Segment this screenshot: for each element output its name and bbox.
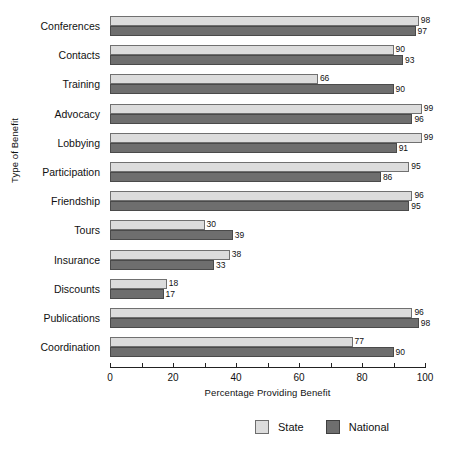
x-tick	[173, 363, 174, 368]
bar-national[interactable]	[110, 26, 416, 36]
bar-state[interactable]	[110, 337, 353, 347]
x-tick	[110, 363, 111, 368]
bar-value-label: 86	[383, 173, 392, 182]
bar-state[interactable]	[110, 220, 205, 230]
bar-national[interactable]	[110, 260, 214, 270]
x-tick-label: 100	[405, 372, 445, 384]
bar-value-label: 91	[399, 144, 408, 153]
x-tick	[299, 363, 300, 368]
bar-national[interactable]	[110, 84, 394, 94]
bar-value-label: 90	[396, 348, 405, 357]
category-label-training: Training	[62, 78, 100, 90]
bar-state[interactable]	[110, 45, 394, 55]
bar-state[interactable]	[110, 133, 422, 143]
bar-national[interactable]	[110, 55, 403, 65]
bar-group: 9897	[110, 16, 425, 36]
bar-state[interactable]	[110, 16, 419, 26]
x-tick-label: 20	[153, 372, 193, 384]
x-tick	[236, 363, 237, 368]
x-tick	[362, 363, 363, 368]
bar-value-label: 33	[216, 261, 225, 270]
bar-group: 3833	[110, 250, 425, 270]
bar-value-label: 38	[232, 250, 241, 259]
bar-national[interactable]	[110, 289, 164, 299]
legend-label-national: National	[349, 421, 389, 433]
bar-national[interactable]	[110, 318, 419, 328]
x-tick-label: 40	[216, 372, 256, 384]
category-label-participation: Participation	[42, 166, 100, 178]
bar-group: 9695	[110, 191, 425, 211]
bar-value-label: 95	[411, 162, 420, 171]
bar-value-label: 17	[166, 290, 175, 299]
x-tick-label: 80	[342, 372, 382, 384]
bar-value-label: 77	[355, 337, 364, 346]
bar-value-label: 98	[421, 319, 430, 328]
bar-national[interactable]	[110, 143, 397, 153]
bar-national[interactable]	[110, 347, 394, 357]
bar-group: 1817	[110, 279, 425, 299]
x-tick	[142, 363, 143, 368]
bar-value-label: 96	[414, 191, 423, 200]
x-tick-label: 0	[90, 372, 130, 384]
category-label-friendship: Friendship	[51, 195, 100, 207]
bar-value-label: 66	[320, 74, 329, 83]
plot-area: 9897909366909996999195869695303938331817…	[110, 14, 425, 364]
category-label-tours: Tours	[74, 224, 100, 236]
bar-national[interactable]	[110, 230, 233, 240]
bar-group: 6690	[110, 74, 425, 94]
bar-value-label: 30	[207, 220, 216, 229]
legend-swatch-national-icon	[326, 420, 340, 434]
bar-value-label: 90	[396, 45, 405, 54]
bar-national[interactable]	[110, 172, 381, 182]
bar-value-label: 90	[396, 85, 405, 94]
bar-state[interactable]	[110, 279, 167, 289]
bar-value-label: 93	[405, 56, 414, 65]
bar-value-label: 96	[414, 308, 423, 317]
bar-group: 9586	[110, 162, 425, 182]
bar-group: 9996	[110, 104, 425, 124]
bar-value-label: 99	[424, 104, 433, 113]
bar-value-label: 96	[414, 115, 423, 124]
bar-state[interactable]	[110, 104, 422, 114]
legend-swatch-state-icon	[255, 420, 269, 434]
bar-group: 3039	[110, 220, 425, 240]
bar-value-label: 95	[411, 202, 420, 211]
bar-value-label: 18	[169, 279, 178, 288]
x-tick-label: 60	[279, 372, 319, 384]
x-tick	[268, 363, 269, 368]
category-label-contacts: Contacts	[59, 49, 100, 61]
bar-national[interactable]	[110, 201, 409, 211]
legend-item-state[interactable]: State	[255, 420, 304, 434]
bar-value-label: 97	[418, 27, 427, 36]
x-tick	[205, 363, 206, 368]
legend-item-national[interactable]: National	[326, 420, 389, 434]
category-label-coordination: Coordination	[40, 341, 100, 353]
bar-group: 9698	[110, 308, 425, 328]
x-tick	[425, 363, 426, 368]
bar-group: 9093	[110, 45, 425, 65]
category-label-discounts: Discounts	[54, 283, 100, 295]
chart-legend: State National	[255, 420, 389, 434]
x-tick	[394, 363, 395, 368]
y-axis-category-labels: ConferencesContactsTrainingAdvocacyLobby…	[0, 14, 104, 364]
bar-state[interactable]	[110, 74, 318, 84]
category-label-advocacy: Advocacy	[54, 108, 100, 120]
category-label-conferences: Conferences	[40, 20, 100, 32]
bar-chart: Type of Benefit ConferencesContactsTrain…	[0, 0, 452, 463]
legend-label-state: State	[278, 421, 304, 433]
bar-group: 9991	[110, 133, 425, 153]
category-label-insurance: Insurance	[54, 254, 100, 266]
category-label-lobbying: Lobbying	[57, 137, 100, 149]
bar-state[interactable]	[110, 308, 412, 318]
bar-state[interactable]	[110, 162, 409, 172]
bar-national[interactable]	[110, 114, 412, 124]
x-axis-title: Percentage Providing Benefit	[110, 387, 425, 398]
x-tick	[331, 363, 332, 368]
bar-group: 7790	[110, 337, 425, 357]
bar-state[interactable]	[110, 191, 412, 201]
bar-value-label: 99	[424, 133, 433, 142]
category-label-publications: Publications	[43, 312, 100, 324]
bar-value-label: 39	[235, 231, 244, 240]
bar-value-label: 98	[421, 16, 430, 25]
bar-state[interactable]	[110, 250, 230, 260]
